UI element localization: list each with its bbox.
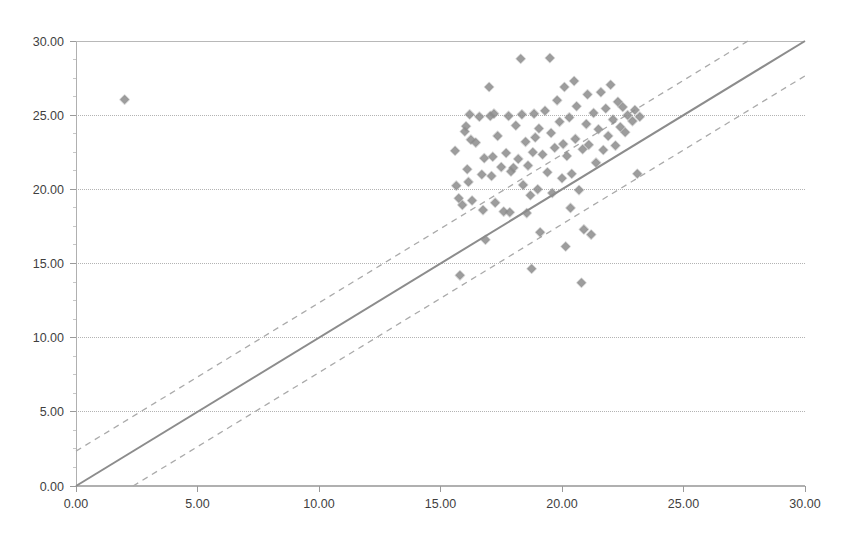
- y-axis-tick-label: 25.00: [33, 109, 64, 123]
- x-axis-tick-label: 20.00: [546, 497, 577, 511]
- x-axis-tick-label: 5.00: [185, 497, 209, 511]
- y-axis-tick-label: 30.00: [33, 35, 64, 49]
- scatter-chart: 0.005.0010.0015.0020.0025.0030.00 0.005.…: [0, 0, 854, 542]
- y-axis-tick-label: 5.00: [40, 405, 64, 419]
- x-axis-tick-label: 30.00: [789, 497, 820, 511]
- x-axis-tick-label: 0.00: [64, 497, 88, 511]
- x-axis-tick-label: 15.00: [425, 497, 456, 511]
- y-axis-tick-label: 20.00: [33, 183, 64, 197]
- y-axis-tick-label: 0.00: [40, 480, 64, 494]
- y-axis-tick-label: 15.00: [33, 257, 64, 271]
- y-axis-tick-label: 10.00: [33, 331, 64, 345]
- x-axis-tick-label: 10.00: [303, 497, 334, 511]
- chart-canvas: 0.005.0010.0015.0020.0025.0030.00 0.005.…: [0, 0, 854, 542]
- x-axis-tick-label: 25.00: [668, 497, 699, 511]
